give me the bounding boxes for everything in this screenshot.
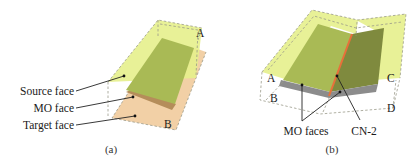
mo-faces-label: MO faces xyxy=(283,125,329,137)
corner-label-a: A xyxy=(267,72,276,84)
caption-b: (b) xyxy=(326,143,339,156)
corner-label-c: C xyxy=(387,72,395,84)
corner-label-b: B xyxy=(164,118,172,130)
source-face-label: Source face xyxy=(20,85,74,97)
mo-face-label: MO face xyxy=(33,102,74,114)
cn2-label: CN-2 xyxy=(351,125,377,137)
corner-label-d: D xyxy=(387,102,395,114)
corner-label-a: A xyxy=(196,27,205,39)
panel-b: A B C D MO faces CN-2 (b) xyxy=(260,10,406,156)
panel-a: A B Source face MO face Target face (a) xyxy=(20,20,206,156)
caption-a: (a) xyxy=(105,143,118,156)
figure-canvas: A B Source face MO face Target face (a) xyxy=(0,0,414,166)
target-face-label: Target face xyxy=(23,119,74,132)
corner-label-b: B xyxy=(270,92,278,104)
